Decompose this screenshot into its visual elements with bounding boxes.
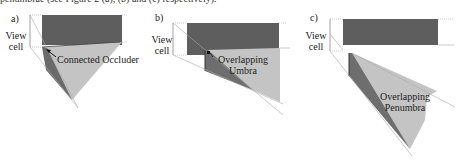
- connected-occluder-label: Connected Occluder: [57, 54, 139, 65]
- occluder-block: [343, 19, 438, 45]
- panel-label: b): [155, 12, 163, 23]
- panel-label: a): [11, 13, 19, 24]
- panel-b-diagram: [150, 0, 300, 166]
- panel-a: a) View cell Connected Occluder: [0, 0, 150, 166]
- overlapping-penumbra-label-line2: Penumbra: [375, 102, 435, 113]
- view-cell-label-line1: View: [5, 30, 27, 41]
- panel-c: c) View cell Overlapping Penumbra: [300, 0, 463, 166]
- panel-b: b) View cell Overlapping Umbra: [150, 0, 300, 166]
- view-cell-label-line2: cell: [5, 41, 27, 52]
- overlapping-umbra-label-line1: Overlapping: [215, 54, 271, 65]
- panel-c-diagram: [300, 0, 463, 166]
- view-cell-label-line1: View: [304, 30, 328, 41]
- panel-a-diagram: [0, 0, 150, 166]
- overlapping-penumbra-label-line1: Overlapping: [375, 91, 435, 102]
- view-cell-label-line2: cell: [304, 41, 328, 52]
- overlapping-umbra-label-line2: Umbra: [215, 65, 271, 76]
- panel-label: c): [310, 12, 318, 23]
- occluder-block: [42, 15, 122, 45]
- view-cell-label-line2: cell: [151, 45, 173, 56]
- view-cell-label-line1: View: [151, 34, 173, 45]
